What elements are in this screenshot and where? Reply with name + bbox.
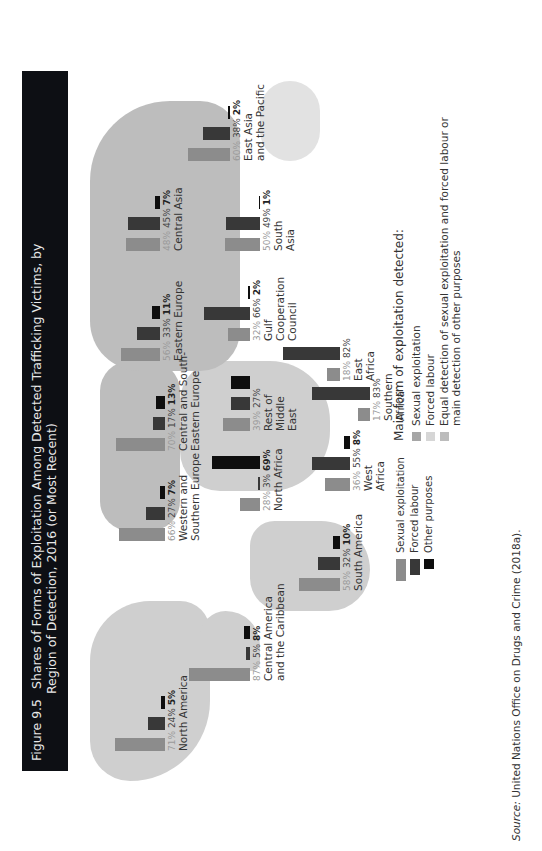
- region-percentages: 71% 24% 5%: [167, 675, 177, 751]
- region-percentages: 66% 27% 7%: [167, 453, 177, 541]
- region-eastern-europe: 56% 33% 11% Eastern Europe: [90, 281, 184, 361]
- region-gcc: 32% 66% 2% Gulf Cooperation Council: [180, 277, 298, 341]
- region-central-asia: 48% 45% 7% Central Asia: [90, 187, 184, 251]
- region-name: East Asia and the Pacific: [242, 84, 266, 161]
- region-west-africa: 36% 55% 8% West Africa: [280, 430, 386, 491]
- land-oceania: [260, 81, 320, 161]
- region-name: Central Asia: [172, 187, 184, 251]
- region-western-southern-europe: 66% 27% 7% Western and Southern Europe: [95, 453, 201, 541]
- bar-other: [161, 696, 165, 709]
- region-percentages: 17% 83%: [372, 373, 382, 421]
- region-central-america: 87% 5% 8% Central America and the Caribb…: [180, 583, 286, 681]
- map-swatch-sexual: [412, 432, 421, 441]
- bar-sexual: [115, 738, 165, 751]
- map-legend: Main form of exploitation detected: Sexu…: [392, 111, 464, 441]
- bar-forced: [148, 717, 165, 730]
- region-percentages: 28% 3% 69%: [262, 448, 272, 511]
- map-legend-title: Main form of exploitation detected:: [392, 111, 406, 441]
- world-map: 71% 24% 5% North America 87% 5% 8% Centr…: [80, 71, 380, 791]
- region-name: Central America and the Caribbean: [262, 583, 286, 681]
- figure-title-bar: Figure 9.5Shares of Forms of Exploitatio…: [22, 71, 68, 771]
- region-east-asia-pacific: 60% 38% 2% East Asia and the Pacific: [160, 84, 266, 161]
- region-north-america: 71% 24% 5% North America: [95, 675, 189, 751]
- region-south-america: 58% 32% 10% South America: [270, 514, 364, 591]
- region-percentages: 70% 17% 13%: [167, 352, 177, 451]
- region-percentages: 48% 45% 7%: [162, 187, 172, 251]
- figure-stage: Figure 9.5Shares of Forms of Exploitatio…: [0, 0, 542, 851]
- region-percentages: 58% 32% 10%: [342, 514, 352, 591]
- region-south-asia: 50% 49% 1% South Asia: [190, 190, 296, 251]
- map-swatch-forced: [426, 432, 435, 441]
- map-swatch-equal: [440, 432, 449, 441]
- region-name: South Asia: [272, 190, 296, 251]
- region-name: North America: [177, 675, 189, 751]
- region-name: Gulf Cooperation Council: [262, 277, 298, 341]
- region-percentages: 39% 27%: [252, 376, 262, 431]
- region-southern-africa: 17% 83% Southern Africa: [300, 373, 406, 421]
- source-note: Source: United Nations Office on Drugs a…: [510, 529, 522, 841]
- region-percentages: 60% 38% 2%: [232, 84, 242, 161]
- region-north-africa: 28% 3% 69% North Africa: [190, 448, 284, 511]
- swatch-forced: [410, 559, 420, 575]
- swatch-sexual: [396, 559, 406, 581]
- figure-label: Figure 9.5: [29, 699, 44, 761]
- figure-title-line2: Region of Detection, 2016 (or Most Recen…: [44, 81, 59, 761]
- region-percentages: 36% 55% 8%: [352, 430, 362, 491]
- region-rest-middle-east: 39% 27% Rest of Middle East: [180, 376, 298, 431]
- region-percentages: 56% 33% 11%: [162, 281, 172, 361]
- region-name: West Africa: [362, 430, 386, 491]
- region-percentages: 32% 66% 2%: [252, 277, 262, 341]
- swatch-other: [424, 559, 434, 569]
- region-name: Rest of Middle East: [262, 376, 298, 431]
- bar-legend: Sexual exploitation Forced labour Other …: [395, 457, 437, 581]
- figure-title-line1: Shares of Forms of Exploitation Among De…: [29, 244, 44, 689]
- region-name: South America: [352, 514, 364, 591]
- region-percentages: 87% 5% 8%: [252, 583, 262, 681]
- region-percentages: 50% 49% 1%: [262, 190, 272, 251]
